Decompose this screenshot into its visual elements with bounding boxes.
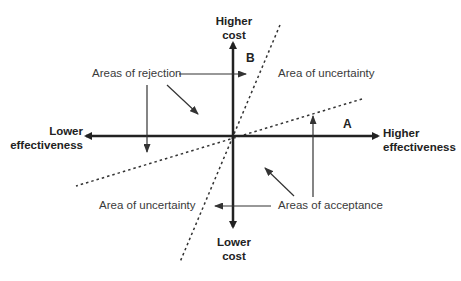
uncertainty-upper-right-label: Area of uncertainty xyxy=(278,67,375,80)
acceptance-pointer-diagonal xyxy=(265,168,294,196)
threshold-a-label: A xyxy=(343,118,352,131)
x-axis-right-label-line2: effectiveness xyxy=(383,140,456,154)
y-axis-bottom-label: Lower cost xyxy=(217,235,251,263)
x-axis-right-label: Higher effectiveness xyxy=(383,126,456,154)
y-axis-bottom-label-line2: cost xyxy=(217,249,251,263)
uncertainty-lower-left-label: Area of uncertainty xyxy=(99,199,196,212)
y-axis-top-label-line2: cost xyxy=(216,28,252,42)
threshold-b-label: B xyxy=(246,52,255,65)
threshold-line-a xyxy=(76,99,362,186)
x-axis-left-label-line2: effectiveness xyxy=(10,138,83,152)
y-axis-top-label: Higher cost xyxy=(216,14,252,42)
x-axis-left-label: Lower effectiveness xyxy=(10,124,83,152)
y-axis-bottom-label-line1: Lower xyxy=(217,235,251,249)
rejection-label: Areas of rejection xyxy=(92,67,182,80)
threshold-line-b xyxy=(180,25,280,262)
y-axis-top-label-line1: Higher xyxy=(216,14,252,28)
acceptance-label: Areas of acceptance xyxy=(278,199,383,212)
x-axis-right-label-line1: Higher xyxy=(383,126,456,140)
x-axis-left-label-line1: Lower xyxy=(10,124,83,138)
rejection-pointer-diagonal xyxy=(167,85,198,114)
